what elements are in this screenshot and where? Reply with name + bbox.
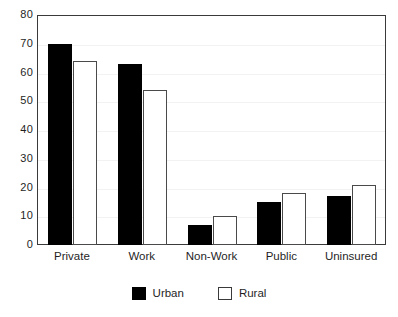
- bar-chart-figure: 80706050403020100 PrivateWorkNon-WorkPub…: [0, 0, 398, 317]
- chart-legend: UrbanRural: [0, 283, 398, 303]
- y-tick-label: 40: [2, 124, 33, 135]
- bar-rural-uninsured: [352, 185, 376, 245]
- bar-urban-work: [118, 64, 142, 245]
- bar-group: [37, 15, 107, 245]
- y-tick-label: 60: [2, 67, 33, 78]
- bar-rural-work: [143, 90, 167, 245]
- y-tick-label: 30: [2, 153, 33, 164]
- bar-group: [316, 15, 386, 245]
- x-tick-label-private: Private: [37, 250, 107, 263]
- bars-layer: [37, 15, 386, 245]
- x-tick-label-non-work: Non-Work: [177, 250, 247, 263]
- bar-urban-uninsured: [327, 196, 351, 245]
- bar-group: [246, 15, 316, 245]
- x-tick-label-public: Public: [246, 250, 316, 263]
- y-tick-label: 50: [2, 95, 33, 106]
- bar-rural-public: [282, 193, 306, 245]
- y-tick-label: 70: [2, 38, 33, 49]
- legend-label: Rural: [239, 287, 266, 300]
- y-axis: 80706050403020100: [0, 0, 33, 317]
- y-tick-label: 0: [2, 239, 33, 250]
- legend-swatch-rural-icon: [218, 287, 232, 300]
- bar-rural-private: [73, 61, 97, 245]
- x-tick-label-uninsured: Uninsured: [316, 250, 386, 263]
- x-axis: PrivateWorkNon-WorkPublicUninsured: [37, 250, 386, 268]
- bar-urban-non-work: [188, 225, 212, 245]
- y-tick-label: 10: [2, 210, 33, 221]
- y-tick-label: 20: [2, 182, 33, 193]
- bar-rural-non-work: [213, 216, 237, 245]
- bar-urban-public: [257, 202, 281, 245]
- legend-entry-rural: Rural: [218, 287, 266, 300]
- bar-group: [107, 15, 177, 245]
- legend-label: Urban: [153, 287, 184, 300]
- y-tick-label: 80: [2, 9, 33, 20]
- legend-entry-urban: Urban: [132, 287, 184, 300]
- bar-group: [177, 15, 247, 245]
- legend-swatch-urban-icon: [132, 287, 146, 300]
- bar-urban-private: [48, 44, 72, 245]
- x-tick-label-work: Work: [107, 250, 177, 263]
